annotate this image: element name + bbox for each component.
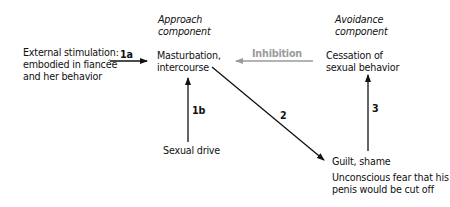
arrow-2 (212, 67, 324, 160)
fear-line1: Unconscious fear that his (332, 172, 449, 184)
node-guilt: Guilt, shame (332, 156, 391, 168)
edge-label-inhibition: Inhibition (252, 48, 302, 60)
external-line2: embodied in fiancée (23, 59, 119, 71)
edge-label-1a: 1a (120, 49, 133, 61)
edge-label-2: 2 (280, 110, 286, 122)
node-masturbation: Masturbation, intercourse (157, 50, 221, 74)
node-cessation: Cessation of sexual behavior (326, 50, 399, 74)
cessation-line2: sexual behavior (326, 62, 399, 74)
approach-header-line1: Approach (158, 14, 210, 26)
approach-header: Approach component (158, 14, 210, 38)
masturbation-line2: intercourse (157, 62, 221, 74)
edge-label-3: 3 (372, 103, 378, 115)
external-line3: and her behavior (23, 71, 119, 83)
avoidance-header-line2: component (335, 26, 387, 38)
external-line1: External stimulation: (23, 47, 119, 59)
edge-label-1b: 1b (192, 105, 205, 117)
approach-header-line2: component (158, 26, 210, 38)
cessation-line1: Cessation of (326, 50, 399, 62)
node-sexual-drive: Sexual drive (163, 145, 220, 157)
masturbation-line1: Masturbation, (157, 50, 221, 62)
node-unconscious-fear: Unconscious fear that his penis would be… (332, 172, 449, 196)
node-external-stimulation: External stimulation: embodied in fiancé… (23, 47, 119, 83)
fear-line2: penis would be cut off (332, 184, 449, 196)
avoidance-header: Avoidance component (335, 14, 387, 38)
avoidance-header-line1: Avoidance (335, 14, 387, 26)
